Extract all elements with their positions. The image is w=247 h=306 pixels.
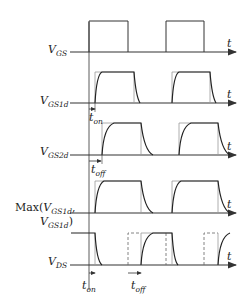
vgs1d-waveform xyxy=(70,72,236,103)
t-axis-label-vgs1d: t xyxy=(227,89,231,100)
label-vgs2d: VGS2d xyxy=(40,146,69,160)
label-max-line1: Max(VGS1d, xyxy=(15,202,75,216)
annotation-t-off-2: toff xyxy=(131,280,145,294)
label-max-line2: VGS1d) xyxy=(40,216,73,230)
t-axis-label-vgs: t xyxy=(227,38,231,49)
annotation-t-on-2: ton xyxy=(82,280,96,294)
label-vds: VDS xyxy=(48,256,67,270)
t-axis-label-vds: t xyxy=(227,251,231,262)
annotation-t-on-1: ton xyxy=(89,112,103,126)
vds-waveform xyxy=(70,233,236,265)
vgs-waveform xyxy=(70,21,236,52)
vgs2d-waveform xyxy=(70,123,236,155)
label-vgs1d: VGS1d xyxy=(40,95,69,109)
timing-waveforms xyxy=(0,0,247,306)
label-vgs: VGS xyxy=(48,44,67,58)
max-waveform xyxy=(70,181,236,213)
t-axis-label-vgs2d: t xyxy=(227,141,231,152)
annotation-t-off-1: toff xyxy=(91,164,105,178)
t-axis-label-max: t xyxy=(227,199,231,210)
timing-diagram: t t t t t VGS VGS1d VGS2d Max(VGS1d, VGS… xyxy=(0,0,247,306)
